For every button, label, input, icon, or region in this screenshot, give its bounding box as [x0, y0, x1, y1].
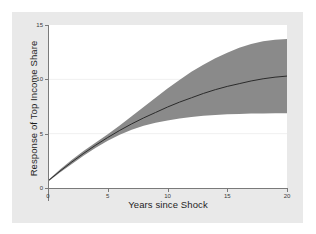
x-axis-title: Years since Shock [48, 199, 288, 210]
y-tick-mark [45, 25, 48, 26]
x-tick-mark [227, 189, 228, 192]
plot-area [48, 25, 287, 188]
x-tick-mark [287, 189, 288, 192]
confidence-band [48, 39, 287, 182]
y-tick-mark [45, 134, 48, 135]
x-tick-mark [168, 189, 169, 192]
y-tick-label: 15 [29, 22, 43, 28]
chart-card: 051015 05101520 Response of Top Income S… [12, 12, 303, 223]
y-axis-line [48, 25, 49, 201]
y-tick-mark [45, 79, 48, 80]
y-axis-title: Response of Top Income Share [28, 29, 39, 189]
x-tick-mark [108, 189, 109, 192]
chart-screenshot: 051015 05101520 Response of Top Income S… [0, 0, 316, 234]
plot-svg [48, 25, 287, 188]
x-tick-mark [48, 189, 49, 192]
